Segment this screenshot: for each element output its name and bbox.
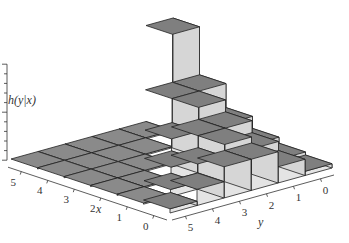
y-tick [240, 201, 241, 204]
z-tick-label: 1.0 [0, 58, 1, 70]
y-tick-label: 5 [188, 221, 194, 233]
z-tick-label: 0 [0, 154, 1, 166]
y-tick-label: 0 [323, 184, 329, 196]
x-tick-label: 3 [64, 193, 70, 205]
x-tick [47, 180, 48, 183]
y-tick-label: 3 [242, 206, 248, 218]
x-tick [153, 216, 154, 219]
y-tick [267, 194, 268, 197]
x-tick-label: 2 [90, 202, 96, 214]
x-tick [100, 198, 101, 201]
y-tick-label: 1 [296, 191, 302, 203]
x-tick [73, 189, 74, 192]
bars [11, 18, 332, 213]
x-tick [126, 207, 127, 210]
z-axis: 00.51.0 [0, 58, 7, 166]
y-tick [186, 216, 187, 219]
y-axis-label: y [257, 215, 264, 229]
x-axis-label: x [95, 202, 102, 216]
y-tick [294, 186, 295, 189]
x-tick-label: 4 [37, 184, 43, 196]
x-tick-label: 5 [11, 176, 17, 188]
x-tick [20, 172, 21, 175]
bar3d-chart: 00.51.0 012345 012345 h(y|x) x y [0, 0, 349, 243]
y-tick-label: 2 [269, 199, 275, 211]
y-tick-label: 4 [215, 214, 221, 226]
y-tick [213, 209, 214, 212]
x-tick-label: 0 [143, 220, 149, 232]
y-tick [321, 179, 322, 182]
x-tick-label: 1 [117, 211, 123, 223]
z-axis-label: h(y|x) [8, 93, 36, 107]
z-tick-label: 0.5 [0, 106, 1, 118]
